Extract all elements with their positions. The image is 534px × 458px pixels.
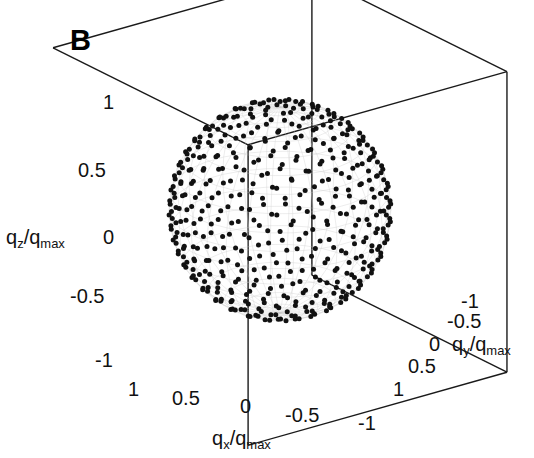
y-tick-0-5: 0.5	[408, 356, 436, 376]
z-tick-neg-1: -1	[95, 350, 113, 370]
x-axis-title-denominator: q	[235, 427, 246, 449]
y-tick-1: 1	[393, 379, 404, 399]
z-axis-title-numerator-sub: z	[17, 236, 24, 251]
y-axis-title-numerator-sub: y	[463, 343, 470, 358]
z-axis-title-denominator-sub: max	[40, 236, 65, 251]
y-tick-neg-1: -1	[461, 291, 479, 311]
y-tick-0: 0	[429, 334, 440, 354]
z-tick-0: 0	[103, 227, 114, 247]
z-tick-neg-0-5: -0.5	[70, 286, 104, 306]
x-axis-title-numerator-sub: x	[223, 437, 230, 452]
y-axis-title-denominator-sub: max	[486, 343, 511, 358]
sphere-point-cloud	[167, 97, 394, 323]
y-tick-neg-0-5: -0.5	[447, 311, 481, 331]
x-tick-neg-0-5: -0.5	[285, 405, 319, 425]
z-axis-title: qz/qmax	[6, 227, 65, 247]
z-tick-1: 1	[103, 92, 114, 112]
axes-bounding-box	[53, 0, 507, 445]
3d-scatter-plot	[0, 0, 534, 458]
figure-panel-b: B 1 0.5 0 -0.5 -1 qz/qmax 1 0.5 0 -0.5 -…	[0, 0, 534, 458]
x-tick-0-5: 0.5	[172, 388, 200, 408]
z-axis-title-numerator: q	[6, 226, 17, 248]
z-tick-0-5: 0.5	[78, 160, 106, 180]
y-axis-title: qy/qmax	[452, 334, 511, 354]
x-axis-title-denominator-sub: max	[246, 437, 271, 452]
panel-label: B	[70, 26, 91, 55]
x-tick-0: 0	[240, 396, 251, 416]
y-axis-title-numerator: q	[452, 333, 463, 355]
z-axis-title-denominator: q	[29, 226, 40, 248]
x-tick-1: 1	[128, 379, 139, 399]
x-axis-title: qx/qmax	[212, 428, 271, 448]
y-axis-title-denominator: q	[475, 333, 486, 355]
x-tick-neg-1: -1	[358, 413, 376, 433]
x-axis-title-numerator: q	[212, 427, 223, 449]
